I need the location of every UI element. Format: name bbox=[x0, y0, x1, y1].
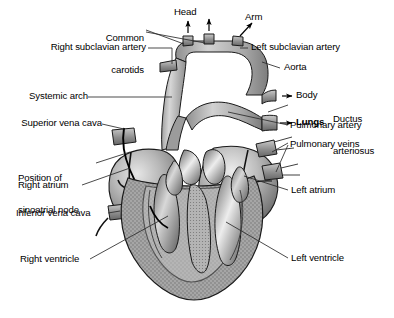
label-body: Body bbox=[296, 90, 317, 101]
left-carotid-stub bbox=[204, 34, 214, 44]
label-common-carotids-line2: carotids bbox=[62, 65, 144, 76]
label-position-of-sinoatrial-node: Position of sinoatrial node bbox=[18, 152, 79, 237]
leader-ductus-arteriosus bbox=[268, 105, 288, 112]
label-pulmonary-artery: Pulmonary artery bbox=[290, 120, 361, 131]
label-right-subclavian-artery: Right subclavian artery bbox=[18, 42, 146, 53]
right-carotid-stub bbox=[183, 36, 193, 46]
label-pulmonary-veins: Pulmonary veins bbox=[290, 139, 359, 150]
label-arm: Arm bbox=[245, 12, 262, 23]
ductus-arteriosus-stub bbox=[262, 115, 277, 131]
label-systemic-arch: Systemic arch bbox=[10, 91, 88, 102]
label-aorta: Aorta bbox=[284, 62, 306, 73]
label-ductus-arteriosus: Ductus arteriosus bbox=[333, 93, 374, 178]
pulmonary-vein-stub-lower bbox=[262, 163, 283, 180]
leader-superior-vena-cava bbox=[102, 124, 124, 129]
label-left-atrium: Left atrium bbox=[291, 185, 335, 196]
label-head: Head bbox=[174, 7, 197, 18]
label-right-ventricle: Right ventricle bbox=[20, 254, 79, 265]
arrow-arm bbox=[240, 23, 252, 36]
left-subclavian-artery-stub bbox=[232, 36, 243, 46]
leader-common-carotids-a bbox=[146, 30, 184, 44]
label-common-carotids: Common carotids bbox=[62, 12, 144, 97]
label-left-ventricle: Left ventricle bbox=[291, 253, 344, 264]
label-superior-vena-cava: Superior vena cava bbox=[10, 118, 102, 129]
pulmonary-valve-region bbox=[203, 150, 225, 185]
label-right-atrium: Right atrium bbox=[18, 180, 69, 191]
pulmonary-artery-trunk bbox=[186, 102, 262, 130]
leader-common-carotids-b bbox=[146, 32, 205, 43]
label-left-subclavian-artery: Left subclavian artery bbox=[251, 42, 340, 53]
pulmonary-vein-stub-upper bbox=[256, 140, 277, 157]
right-subclavian-artery-stub bbox=[160, 60, 177, 72]
heart-diagram-figure: Common carotids Head Arm Right subclavia… bbox=[0, 0, 394, 318]
label-inferior-vena-cava: Inferior vena cava bbox=[16, 208, 90, 219]
